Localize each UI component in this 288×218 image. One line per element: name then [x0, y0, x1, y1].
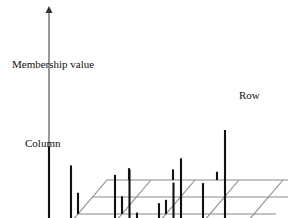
ground-grid	[49, 180, 288, 218]
axes-group	[0, 12, 278, 218]
row-axis-label: Row	[239, 89, 260, 101]
stem-group	[49, 130, 225, 218]
membership-value-axis-label: Membership value	[12, 58, 94, 70]
stem-plot-svg: Membership value Row Column	[0, 0, 288, 218]
figure-canvas: Membership value Row Column	[0, 0, 288, 218]
column-axis-label: Column	[25, 137, 61, 149]
